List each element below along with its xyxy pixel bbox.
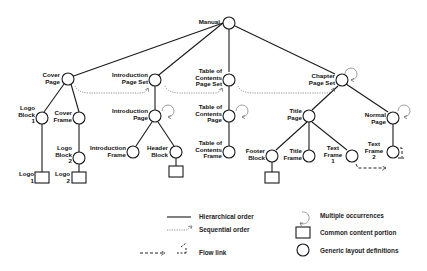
node-intro-frame <box>127 146 139 158</box>
node-toc-page-set <box>223 74 235 86</box>
label-title-page: Title Page <box>280 108 302 121</box>
label-intro-page-set: Introduction Page Set <box>104 72 148 85</box>
node-toc-page <box>223 110 235 122</box>
node-toc-frame <box>223 146 235 158</box>
legend-flow-link: Flow link <box>199 249 226 256</box>
label-toc-page-set: Table of Contents Page Set <box>186 68 222 88</box>
layout-structure-diagram: Manual Cover Page Introduction Page Set … <box>0 0 427 271</box>
label-manual: Manual <box>188 19 220 26</box>
node-header-block <box>170 146 182 158</box>
node-title-frame <box>303 150 315 162</box>
node-logo-2 <box>72 172 86 183</box>
node-intro-page <box>149 110 161 122</box>
node-text-frame-1 <box>346 150 358 162</box>
node-cover-frame <box>73 112 85 124</box>
legend-hierarchical-order: Hierarchical order <box>199 213 254 220</box>
label-header-block: Header Block <box>140 145 168 158</box>
node-normal-page <box>387 112 399 124</box>
label-intro-frame: Introduction Frame <box>82 145 126 158</box>
common-content-nodes <box>35 166 279 183</box>
label-title-frame: Title Frame <box>280 148 302 161</box>
legend-sequential-order: Sequential order <box>199 226 249 233</box>
legend-multiple-occurrences: Multiple occurrences <box>320 212 384 219</box>
node-intro-page-set <box>149 74 161 86</box>
node-manual <box>223 17 235 29</box>
label-chapter-page-set: Chapter Page Set <box>300 73 335 86</box>
label-footer-block: Footer Block <box>240 148 265 161</box>
label-logo-block-2: Logo Block 2 <box>50 145 72 165</box>
label-toc-frame: Table of Contents Frame <box>186 140 222 160</box>
node-cover-page <box>62 73 74 85</box>
node-logo-block-1 <box>36 112 48 124</box>
legend-generic-layout: Generic layout definitions <box>320 247 398 254</box>
label-normal-page: Normal Page <box>358 112 386 125</box>
node-footer-content <box>265 172 279 183</box>
legend-common-content: Common content portion <box>320 229 396 236</box>
label-logo-block-1: Logo Block 1 <box>10 105 35 125</box>
label-logo-2: Logo 2 <box>50 171 70 184</box>
node-title-page <box>303 110 315 122</box>
label-intro-page: Introduction Page <box>104 108 148 121</box>
node-text-frame-2 <box>387 146 399 158</box>
node-header-content <box>169 166 183 177</box>
label-text-frame-1: Text Frame 1 <box>322 145 344 165</box>
label-text-frame-2: Text Frame 2 <box>362 141 386 161</box>
label-cover-frame: Cover Frame <box>50 110 72 123</box>
label-toc-page: Table of Contents Page <box>186 104 222 124</box>
node-chapter-page-set <box>336 74 348 86</box>
node-logo-1 <box>35 172 49 183</box>
node-footer-block <box>266 150 278 162</box>
label-logo-1: Logo 1 <box>10 171 34 184</box>
label-cover-page: Cover Page <box>28 72 60 85</box>
